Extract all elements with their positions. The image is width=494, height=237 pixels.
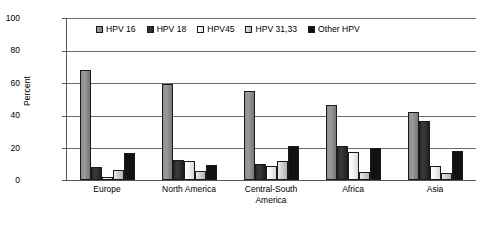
legend-item: HPV 18 bbox=[147, 24, 187, 34]
bar-group bbox=[394, 18, 476, 180]
bar-chart: Percent 100 80 60 40 20 0 HPV 16HPV 18HP… bbox=[0, 0, 494, 237]
bar bbox=[288, 146, 299, 180]
legend-item: Other HPV bbox=[308, 24, 360, 34]
bar bbox=[206, 165, 217, 180]
legend-swatch-icon bbox=[147, 26, 154, 33]
bar-group bbox=[67, 18, 149, 180]
y-tick-label-0: 0 bbox=[0, 176, 20, 185]
legend-label: HPV 18 bbox=[157, 24, 187, 34]
chart-legend: HPV 16HPV 18HPV45HPV 31,33Other HPV bbox=[96, 24, 360, 34]
bar bbox=[430, 166, 441, 180]
x-axis-label: Europe bbox=[66, 184, 148, 205]
bar bbox=[162, 84, 173, 180]
legend-item: HPV 16 bbox=[96, 24, 136, 34]
plot-area bbox=[66, 18, 476, 181]
bar bbox=[266, 166, 277, 180]
legend-swatch-icon bbox=[197, 26, 204, 33]
bar bbox=[370, 148, 381, 180]
legend-item: HPV 31,33 bbox=[245, 24, 297, 34]
bar bbox=[102, 177, 113, 180]
x-axis-label-line: Central-South bbox=[230, 184, 312, 195]
legend-label: HPV 31,33 bbox=[255, 24, 297, 34]
x-axis-label: Africa bbox=[312, 184, 394, 205]
y-tick-label-20: 20 bbox=[0, 144, 20, 153]
bar-groups bbox=[67, 18, 476, 180]
bar bbox=[359, 172, 370, 180]
x-axis-label: North America bbox=[148, 184, 230, 205]
bar bbox=[124, 153, 135, 180]
legend-swatch-icon bbox=[96, 26, 103, 33]
bar bbox=[195, 171, 206, 180]
legend-label: Other HPV bbox=[318, 24, 360, 34]
legend-label: HPV45 bbox=[207, 24, 234, 34]
legend-item: HPV45 bbox=[197, 24, 234, 34]
bar-group bbox=[231, 18, 313, 180]
bar bbox=[326, 105, 337, 180]
y-tick-label-60: 60 bbox=[0, 79, 20, 88]
bar bbox=[255, 164, 266, 180]
x-axis-label: Central-SouthAmerica bbox=[230, 184, 312, 205]
bar bbox=[277, 161, 288, 180]
bar-group bbox=[149, 18, 231, 180]
bar bbox=[91, 167, 102, 180]
bar bbox=[348, 152, 359, 180]
bar bbox=[113, 170, 124, 180]
x-axis-label-line: America bbox=[230, 195, 312, 206]
bar-group bbox=[312, 18, 394, 180]
bar bbox=[419, 121, 430, 180]
legend-swatch-icon bbox=[245, 26, 252, 33]
bar bbox=[337, 146, 348, 180]
bar bbox=[441, 173, 452, 180]
legend-label: HPV 16 bbox=[106, 24, 136, 34]
legend-swatch-icon bbox=[308, 26, 315, 33]
bar bbox=[80, 70, 91, 180]
y-tick-label-40: 40 bbox=[0, 111, 20, 120]
x-axis-labels: EuropeNorth AmericaCentral-SouthAmericaA… bbox=[66, 184, 476, 205]
x-axis-label: Asia bbox=[394, 184, 476, 205]
x-axis-label-line: Europe bbox=[66, 184, 148, 195]
x-axis-label-line: Asia bbox=[394, 184, 476, 195]
bar bbox=[408, 112, 419, 180]
y-tick-label-80: 80 bbox=[0, 46, 20, 55]
x-axis-label-line: North America bbox=[148, 184, 230, 195]
bar bbox=[452, 151, 463, 180]
x-axis-label-line: Africa bbox=[312, 184, 394, 195]
bar bbox=[244, 91, 255, 180]
bar bbox=[184, 161, 195, 180]
y-tick-label-100: 100 bbox=[0, 14, 20, 23]
tick-0 bbox=[62, 180, 67, 181]
y-axis-title: Percent bbox=[22, 56, 32, 126]
bar bbox=[173, 160, 184, 180]
